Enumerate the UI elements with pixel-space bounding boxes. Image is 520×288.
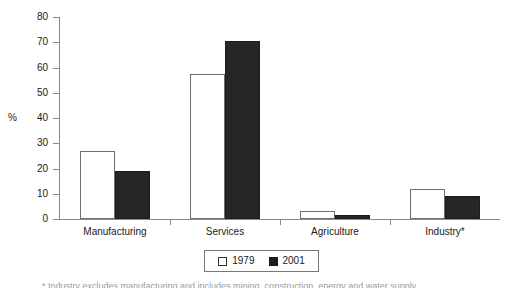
bar-2001-agriculture <box>335 215 370 219</box>
bar-1979-services <box>190 74 225 219</box>
y-axis-tick-label: 0 <box>18 214 48 224</box>
y-axis-tick-label: 60 <box>18 63 48 73</box>
y-axis-tick <box>53 169 59 170</box>
y-axis-tick <box>53 93 59 94</box>
legend-label-1979: 1979 <box>232 256 254 266</box>
chart-footnote: * Industry excludes manufacturing and in… <box>42 281 416 288</box>
plot-area <box>60 17 500 219</box>
x-axis-tick <box>280 220 281 225</box>
bar-1979-manufacturing <box>80 151 115 219</box>
black-square-icon <box>269 257 278 266</box>
y-axis-tick <box>53 17 59 18</box>
x-axis-tick <box>390 220 391 225</box>
bar-chart: % 01020304050607080 ManufacturingService… <box>0 0 520 288</box>
y-axis-tick <box>53 118 59 119</box>
y-axis-tick-label: 20 <box>18 164 48 174</box>
legend-item-2001: 2001 <box>269 256 305 266</box>
legend-item-1979: 1979 <box>218 256 254 266</box>
bar-2001-manufacturing <box>115 171 150 219</box>
x-axis-category-label: Manufacturing <box>60 226 170 238</box>
legend: 1979 2001 <box>204 250 319 272</box>
y-axis-tick <box>53 143 59 144</box>
y-axis-tick-label: 10 <box>18 189 48 199</box>
bar-2001-industry <box>445 196 480 219</box>
y-axis-tick-label: 50 <box>18 88 48 98</box>
bar-1979-agriculture <box>300 211 335 219</box>
y-axis-tick <box>53 42 59 43</box>
bar-1979-industry <box>410 189 445 219</box>
white-square-icon <box>218 257 227 266</box>
legend-label-2001: 2001 <box>283 256 305 266</box>
y-axis-tick <box>53 68 59 69</box>
x-axis-tick <box>170 220 171 225</box>
y-axis-tick-label: 80 <box>18 12 48 22</box>
y-axis-tick-label: 40 <box>18 113 48 123</box>
x-axis-category-label: Services <box>170 226 280 238</box>
y-axis-tick <box>53 219 59 220</box>
y-axis-tick-label: 70 <box>18 37 48 47</box>
x-axis-category-label: Industry* <box>390 226 500 238</box>
y-axis-tick-label: 30 <box>18 138 48 148</box>
y-axis-tick <box>53 194 59 195</box>
x-axis-category-label: Agriculture <box>280 226 390 238</box>
bar-2001-services <box>225 41 260 219</box>
